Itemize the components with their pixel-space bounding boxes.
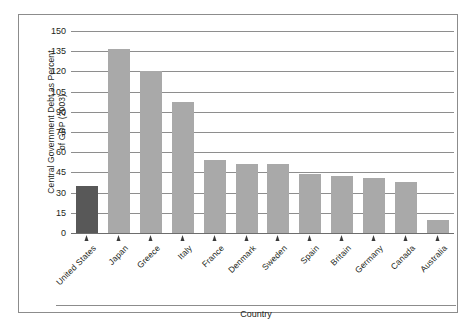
bar <box>76 186 98 233</box>
x-tick-marker-icon <box>436 235 440 241</box>
x-tick-marker-icon <box>372 235 376 241</box>
x-tick-label: Canada <box>389 243 418 272</box>
bar <box>299 174 321 233</box>
y-tick-label: 105 <box>51 87 66 97</box>
y-tick-label: 45 <box>56 167 66 177</box>
chart-figure: Central Government Debt as Percent of GD… <box>0 0 476 331</box>
x-tick-marker-icon <box>116 235 120 241</box>
x-tick-label: Italy <box>175 243 193 261</box>
x-tick-label: Japan <box>106 243 130 267</box>
bar <box>395 182 417 233</box>
x-tick-marker-icon <box>148 235 152 241</box>
x-axis-tick-labels: United StatesJapanGreeceItalyFranceDenma… <box>71 243 454 299</box>
bar-series <box>71 31 454 233</box>
x-tick-label: Australia <box>418 243 449 274</box>
chart-frame: Central Government Debt as Percent of GD… <box>18 14 458 313</box>
x-tick-marker-icon <box>404 235 408 241</box>
bar <box>140 71 162 233</box>
x-tick-marker-icon <box>308 235 312 241</box>
y-tick-label: 150 <box>51 26 66 36</box>
y-tick-label: 15 <box>56 208 66 218</box>
x-tick-label: United States <box>54 243 98 287</box>
x-tick-label: Greece <box>135 243 162 270</box>
y-tick-label: 0 <box>61 228 66 238</box>
x-axis-rule <box>56 305 456 306</box>
y-tick-label: 135 <box>51 46 66 56</box>
y-tick-label: 120 <box>51 66 66 76</box>
x-tick-label: Denmark <box>226 243 258 275</box>
y-tick-label: 75 <box>56 127 66 137</box>
x-tick-marker-icon <box>276 235 280 241</box>
x-tick-marker-icon <box>340 235 344 241</box>
bar <box>331 176 353 233</box>
bar <box>267 164 289 233</box>
plot-area: 0153045607590105120135150 <box>71 31 454 233</box>
x-tick-label: Sweden <box>260 243 289 272</box>
y-tick-label: 30 <box>56 188 66 198</box>
x-axis-title: Country <box>56 309 456 319</box>
x-tick-marker-icon <box>84 235 88 241</box>
x-tick-marker-icon <box>180 235 184 241</box>
bar <box>236 164 258 233</box>
bar <box>204 160 226 233</box>
y-tick-label: 90 <box>56 107 66 117</box>
bar <box>108 49 130 233</box>
bar <box>427 220 449 233</box>
y-tick-label: 60 <box>56 147 66 157</box>
x-tick-label: Spain <box>299 243 322 266</box>
x-tick-label: Germany <box>353 243 385 275</box>
x-tick-label: France <box>199 243 225 269</box>
x-tick-marker-icon <box>244 235 248 241</box>
x-tick-marker-icon <box>212 235 216 241</box>
x-axis-ticks <box>71 234 454 242</box>
bar <box>363 178 385 233</box>
x-tick-label: Britain <box>329 243 354 268</box>
bar <box>172 102 194 233</box>
